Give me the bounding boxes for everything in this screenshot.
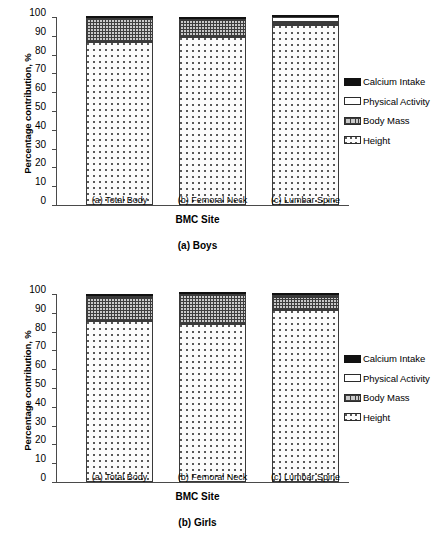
y-axis-title: Percentage contribution, % (22, 19, 33, 209)
plot-area-girls: 0102030405060708090100 (56, 294, 339, 482)
segment-body-mass (272, 22, 339, 25)
y-axis-tick: 30 (52, 426, 56, 427)
x-axis-category-label: (c) Lumbar Spine (258, 195, 354, 205)
y-axis-tick: 50 (52, 388, 56, 389)
legend-item-label: Body Mass (363, 115, 410, 126)
y-axis-tick-label: 60 (22, 87, 46, 88)
y-axis-tick: 20 (52, 444, 56, 445)
x-axis-category-label: (b) Femoral Neck (165, 195, 261, 205)
stacked-bar (86, 17, 153, 205)
chart-caption: (b) Girls (56, 517, 339, 528)
segment-height (272, 310, 339, 482)
y-axis-tick-label: 80 (22, 50, 46, 51)
y-axis-tick: 0 (52, 205, 56, 206)
x-axis-category-label: (a) Total Body (72, 195, 168, 205)
segment-height (86, 321, 153, 482)
y-axis-tick: 30 (52, 149, 56, 150)
legend-swatch-calcium-icon (344, 78, 361, 86)
x-axis-category-label: (c) Lumbar Spine (258, 472, 354, 482)
stacked-bar (272, 17, 339, 205)
legend-item: Calcium Intake (344, 349, 447, 369)
segment-calcium-intake (179, 292, 246, 294)
legend-swatch-activity-icon (344, 97, 361, 105)
y-axis-tick-label: 0 (22, 477, 46, 478)
y-axis-tick-label: 30 (22, 421, 46, 422)
legend-swatch-bodymass-icon (344, 117, 361, 125)
stacked-bar (86, 294, 153, 482)
x-axis-category-label: (a) Total Body (72, 472, 168, 482)
y-axis-tick-label: 90 (22, 308, 46, 309)
segment-body-mass (179, 295, 246, 324)
y-axis-tick: 40 (52, 407, 56, 408)
legend-item: Body Mass (344, 388, 447, 408)
x-axis-category-label: (b) Femoral Neck (165, 472, 261, 482)
y-axis-tick: 60 (52, 92, 56, 93)
segment-height (179, 37, 246, 205)
y-axis-tick-label: 20 (22, 439, 46, 440)
legend-swatch-hgt-icon (344, 136, 361, 144)
segment-calcium-intake (179, 17, 246, 19)
y-axis-tick: 90 (52, 313, 56, 314)
legend-swatch-calcium-icon (344, 355, 361, 363)
segment-body-mass (272, 297, 339, 310)
chart-girls: Percentage contribution, % 0102030405060… (0, 277, 447, 554)
segment-height (86, 42, 153, 205)
stacked-bar (272, 294, 339, 482)
y-axis-tick: 10 (52, 463, 56, 464)
y-axis-tick: 80 (52, 332, 56, 333)
y-axis-tick: 60 (52, 369, 56, 370)
legend-item: Physical Activity (344, 369, 447, 389)
y-axis-tick: 0 (52, 482, 56, 483)
legend-item: Physical Activity (344, 92, 447, 112)
legend-item-label: Physical Activity (363, 96, 430, 107)
legend-item: Body Mass (344, 111, 447, 131)
segment-body-mass (179, 20, 246, 37)
legend-girls: Calcium IntakePhysical ActivityBody Mass… (344, 349, 447, 427)
stacked-bar (179, 294, 246, 482)
y-axis-tick-label: 70 (22, 68, 46, 69)
y-axis-tick: 80 (52, 55, 56, 56)
y-axis-tick-label: 50 (22, 106, 46, 107)
y-axis-tick-label: 100 (22, 12, 46, 13)
segment-calcium-intake (272, 15, 339, 17)
y-axis-line (56, 294, 57, 482)
legend-swatch-bodymass-icon (344, 394, 361, 402)
segment-physical-activity (86, 296, 153, 298)
y-axis-tick: 20 (52, 167, 56, 168)
y-axis-tick-label: 10 (22, 181, 46, 182)
segment-calcium-intake (86, 16, 153, 18)
legend-swatch-activity-icon (344, 374, 361, 382)
segment-height (179, 324, 246, 482)
y-axis-tick-label: 50 (22, 383, 46, 384)
segment-height (272, 25, 339, 205)
y-axis-tick-label: 40 (22, 125, 46, 126)
segment-body-mass (86, 18, 153, 42)
y-axis-tick-label: 80 (22, 327, 46, 328)
legend-item-label: Height (363, 135, 390, 146)
y-axis-line (56, 17, 57, 205)
y-axis-tick-label: 90 (22, 31, 46, 32)
y-axis-title: Percentage contribution, % (22, 296, 33, 486)
y-axis-tick-label: 20 (22, 162, 46, 163)
y-axis-tick: 100 (52, 17, 56, 18)
segment-calcium-intake (272, 293, 339, 295)
legend-item-label: Calcium Intake (363, 353, 425, 364)
segment-physical-activity (272, 295, 339, 297)
y-axis-tick: 70 (52, 350, 56, 351)
y-axis-tick: 100 (52, 294, 56, 295)
x-axis-line (53, 482, 349, 483)
y-axis-tick-label: 0 (22, 200, 46, 201)
y-axis-tick: 40 (52, 130, 56, 131)
legend-item-label: Body Mass (363, 392, 410, 403)
legend-item-label: Physical Activity (363, 373, 430, 384)
x-axis-line (53, 205, 349, 206)
y-axis-tick: 10 (52, 186, 56, 187)
legend-item: Calcium Intake (344, 72, 447, 92)
y-axis-tick-label: 30 (22, 144, 46, 145)
y-axis-tick-label: 100 (22, 289, 46, 290)
legend-item-label: Height (363, 412, 390, 423)
y-axis-tick: 90 (52, 36, 56, 37)
legend-swatch-hgt-icon (344, 413, 361, 421)
y-axis-tick: 50 (52, 111, 56, 112)
legend-boys: Calcium IntakePhysical ActivityBody Mass… (344, 72, 447, 150)
